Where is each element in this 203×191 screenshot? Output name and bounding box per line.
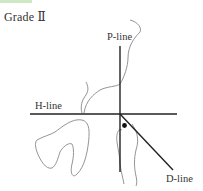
left-curl-outline	[81, 82, 88, 113]
h-line-label: H-line	[35, 100, 62, 111]
reference-point	[122, 123, 127, 128]
p-line-label: P-line	[107, 31, 132, 42]
tooth-outline	[36, 120, 90, 176]
d-line-label: D-line	[166, 173, 193, 184]
ramus-right-outline	[132, 124, 138, 186]
diagram-canvas	[0, 0, 203, 191]
d-line	[120, 114, 173, 170]
